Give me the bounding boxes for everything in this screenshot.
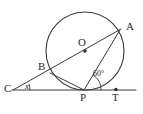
point-label-O: O bbox=[78, 37, 86, 48]
secant-line-C-A bbox=[13, 29, 121, 90]
point-label-P: P bbox=[80, 92, 86, 103]
chord-P-A bbox=[84, 30, 120, 90]
angle-label-x: x bbox=[25, 82, 29, 91]
point-label-B: B bbox=[38, 61, 45, 72]
center-point-dot bbox=[83, 49, 86, 52]
angle-label-60-degrees: 60° bbox=[93, 70, 104, 78]
point-label-A: A bbox=[126, 21, 134, 32]
point-label-C: C bbox=[4, 83, 11, 94]
geometry-figure: A B C O P T x 60° bbox=[0, 0, 143, 114]
geometry-canvas bbox=[0, 0, 143, 114]
angle-arc-at-C bbox=[29, 84, 30, 90]
chord-B-P bbox=[50, 73, 84, 90]
point-label-T: T bbox=[112, 92, 119, 103]
